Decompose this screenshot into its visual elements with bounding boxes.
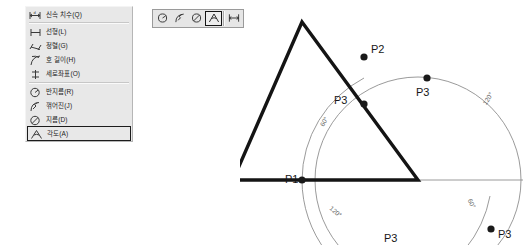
menu-item-jogged[interactable]: 꺾어진(J) [26,98,132,112]
menu-item-arc-length[interactable]: 호 길이(H) [26,52,132,66]
diameter-dimension-icon [190,10,204,28]
jogged-dimension-icon [173,10,187,28]
point-marker-p2 [360,53,367,60]
svg-text:d: d [34,9,36,14]
menu-item-label: 선형(L) [46,25,66,38]
menu-item-label: 세로좌표(O) [46,67,80,80]
diameter-dimension-icon [28,113,43,126]
point-label-p3-bottom: P3 [384,232,397,244]
angular-dimension-icon [29,127,44,140]
ordinate-dimension-icon [28,67,43,80]
triangle-outline [240,22,418,180]
menu-item-label: 반지름(R) [46,85,74,98]
arc-length-dimension-icon [28,53,43,66]
menu-item-label: 각도(A) [47,127,68,140]
point-marker-p3-lower-right [487,225,494,232]
radius-dimension-icon [156,10,170,28]
toolbar-diameter-button[interactable] [188,11,205,26]
point-label-p3-upper: P3 [416,86,429,98]
menu-item-aligned[interactable]: 정렬(G) [26,38,132,52]
toolbar-radius-button[interactable] [154,11,171,26]
quick-dimension-icon: d [28,8,43,21]
point-label-p3-inner: P3 [334,94,347,106]
point-markers [298,53,494,232]
menu-item-radius[interactable]: 반지름(R) [26,84,132,98]
dimension-dropdown-menu[interactable]: d 신속 치수(Q) 선형(L) 정렬(G) [25,6,133,142]
jogged-dimension-icon [28,99,43,112]
point-label-p3-lower-right: P3 [498,228,511,240]
menu-item-linear[interactable]: 선형(L) [26,24,132,38]
angular-dimension-icon [207,10,221,28]
menu-item-quick-dimension[interactable]: d 신속 치수(Q) [26,7,132,21]
menu-item-label: 꺾어진(J) [46,99,72,112]
linear-dimension-icon [28,25,43,38]
dimension-toolbar[interactable] [152,9,244,28]
menu-item-ordinate[interactable]: 세로좌표(O) [26,66,132,80]
menu-item-angular[interactable]: 각도(A) [27,126,131,141]
menu-item-label: 호 길이(H) [46,53,76,66]
point-label-p2: P2 [371,43,384,55]
point-marker-p3-upper [423,74,430,81]
menu-item-label: 지름(D) [46,113,68,126]
point-marker-p3-inner [360,100,367,107]
toolbar-angular-button[interactable] [205,11,222,26]
angular-dimension-drawing: P2 P3 P3 P1 P3 P3 120° 60° 120° 60° [240,0,523,245]
menu-item-label: 정렬(G) [46,39,68,52]
point-marker-p1 [298,176,305,183]
menu-item-diameter[interactable]: 지름(D) [26,112,132,126]
menu-item-label: 신속 치수(Q) [46,8,82,21]
baseline-dimension-icon [227,10,241,28]
aligned-dimension-icon [28,39,43,52]
point-label-p1: P1 [285,173,298,185]
drawing-canvas [240,0,523,245]
radius-dimension-icon [28,85,43,98]
toolbar-jogged-button[interactable] [171,11,188,26]
